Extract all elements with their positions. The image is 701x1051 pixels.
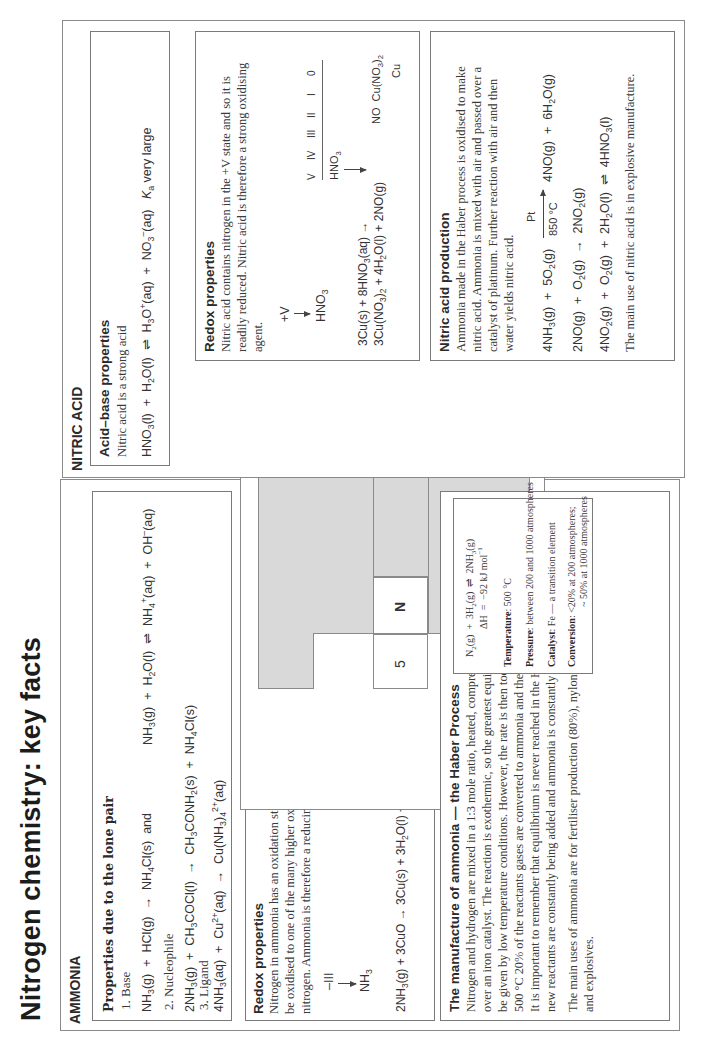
- temperature-row: Temperature: 500 °C: [502, 578, 513, 667]
- element-symbol: N: [392, 602, 408, 612]
- nitric-oxidation-ladder: V IV III II I 0 HNO3 NO Cu(NO3)2 Cu: [306, 40, 406, 180]
- ammonia-species: NH3: [358, 969, 372, 992]
- production-use: The main use of nitric acid is in explos…: [621, 74, 640, 352]
- nitric-redox-line: agent.: [250, 63, 266, 352]
- production-line: catalyst of platinum. Further reaction w…: [485, 66, 501, 352]
- ladder-axis: [322, 60, 323, 180]
- ladder-level-V: V: [306, 173, 317, 180]
- acid-base-box: Acid–base properties Nitric acid is a st…: [90, 31, 170, 466]
- ladder-level-III: III: [306, 130, 317, 138]
- ammonia-redox-equation: 2NH3(g) + 3CuO → 3Cu(s) + 3H2O(l) + N2: [394, 788, 408, 1012]
- production-eq1-temp: 850 °C: [547, 202, 559, 236]
- nitric-redox-text: Nitric acid contains nitrogen in the +V …: [218, 63, 266, 352]
- ammonia-heading: AMMONIA: [67, 956, 83, 1024]
- nitric-production-box: Nitric acid production Ammonia made in t…: [430, 31, 675, 361]
- ladder-species-cu: Cu: [390, 64, 402, 78]
- nitrogen-element-cell: N: [373, 577, 428, 634]
- production-heading: Nitric acid production: [437, 212, 452, 352]
- haber-heading: The manufacture of ammonia — the Haber P…: [447, 684, 462, 1012]
- ammonia-redox-heading: Redox properties: [251, 903, 266, 1014]
- nitric-redox-line: Nitric acid contains nitrogen in the +V …: [218, 63, 234, 352]
- page-title: Nitrogen chemistry: key facts: [16, 637, 47, 1021]
- nitric-redox-line: readily reduced. Nitric acid is therefor…: [234, 63, 250, 352]
- ladder-level-II: II: [306, 112, 317, 118]
- production-line: nitric acid. Ammonia is mixed with air a…: [469, 66, 485, 352]
- hno3-to-no-arrow-icon: [344, 169, 366, 170]
- base-label: 1. Base: [117, 972, 136, 1010]
- production-eq1-catalyst: Pt: [525, 212, 537, 222]
- nitric-state-label: +V: [278, 306, 292, 322]
- base-equation-2: NH3(g) + H2O(l) ⇌ NH4+(aq) + OH–(aq): [140, 509, 155, 745]
- nitric-redox-heading: Redox properties: [202, 241, 217, 352]
- production-eq1-left: 4NH3(g) + 5O2(g): [541, 249, 555, 352]
- nitric-redox-equation-1: 3Cu(s) + 8HNO3(aq) →: [356, 222, 370, 346]
- down-arrow-icon: [294, 313, 310, 314]
- haber-equation: N2(g) + 3H2(g) ⇌ 2NH3(g): [464, 539, 475, 657]
- pressure-row: Pressure: between 200 and 1000 atmospher…: [524, 482, 535, 667]
- acid-base-text: Nitric acid is a strong acid: [113, 325, 132, 457]
- production-eq1-right: 4NO(g) + 6H2O(g): [541, 74, 555, 182]
- lone-pair-heading: Properties due to the lone pair: [101, 796, 116, 1012]
- reaction-arrow-icon: [543, 190, 544, 238]
- base-equation-1: NH3(g) + HCl(g) → NH4Cl(s) and: [140, 813, 154, 1012]
- down-arrow-icon: [338, 983, 356, 984]
- ladder-level-0: 0: [306, 70, 317, 76]
- ladder-level-IV: IV: [306, 151, 317, 160]
- catalyst-row: Catalyst: Fe — a transition element: [546, 522, 557, 667]
- production-eq3: 4NO2(g) + O2(g) + 2H2O(l) ⇌ 4HNO3(l): [597, 117, 612, 352]
- production-text: Ammonia made in the Haber process is oxi…: [453, 66, 517, 352]
- ladder-level-I: I: [306, 93, 317, 96]
- haber-conditions-box: N2(g) + 3H2(g) ⇌ 2NH3(g) ΔH = −92 kJ mol…: [453, 498, 593, 674]
- nitric-species: HNO3: [314, 289, 328, 322]
- nucleophile-label: 2. Nucleophile: [160, 933, 179, 1010]
- conversion-row: Conversion: <20% at 200 atmospheres;: [566, 506, 577, 667]
- ladder-species-hno3: HNO3: [328, 151, 340, 180]
- group-5-label-cell: 5: [373, 634, 428, 689]
- nitric-acid-heading: NITRIC ACID: [69, 387, 85, 471]
- ladder-species-no-cuno3: NO Cu(NO3)2: [370, 55, 382, 124]
- rotated-page: Nitrogen chemistry: key facts AMMONIA Pr…: [0, 0, 701, 1051]
- ligand-equation: 4NH3(aq) + Cu2+(aq) → Cu(NH3)42+(aq): [212, 780, 226, 1012]
- conversion-row-2: ~ 50% at 1000 atmospheres: [578, 496, 589, 607]
- ligand-label: 3. Ligand: [195, 960, 214, 1010]
- nitric-redox-equation-2: 3Cu(NO3)2 + 4H2O(l) + 2NO(g): [372, 182, 386, 346]
- acid-base-equation: HNO3(l) + H2O(l) ⇌ H3O+(aq) + NO3–(aq) K…: [139, 128, 154, 458]
- production-line: water yields nitric acid.: [501, 66, 517, 352]
- nitric-redox-box: Redox properties Nitric acid contains ni…: [195, 31, 420, 361]
- production-eq2: 2NO(g) + O2(g) → 2NO2(g): [571, 188, 585, 352]
- production-line: Ammonia made in the Haber process is oxi…: [453, 66, 469, 352]
- group-label: 5: [392, 660, 408, 668]
- haber-enthalpy: ΔH = −92 kJ mol−1: [478, 547, 489, 629]
- acid-base-heading: Acid–base properties: [97, 320, 112, 457]
- oxidation-state-label: –III: [322, 973, 336, 990]
- lone-pair-box: Properties due to the lone pair 1. Base …: [92, 491, 232, 1021]
